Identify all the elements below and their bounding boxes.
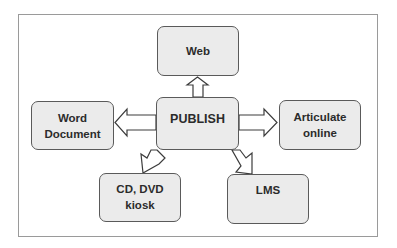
node-web-label: Web bbox=[186, 43, 210, 59]
node-publish-label: PUBLISH bbox=[170, 111, 225, 127]
node-lms: LMS bbox=[227, 174, 309, 224]
node-articulate-online: Articulate online bbox=[279, 100, 361, 150]
node-lms-label: LMS bbox=[256, 182, 280, 198]
node-articulate-online-label-2: online bbox=[303, 125, 337, 141]
node-articulate-online-label-1: Articulate bbox=[293, 109, 346, 125]
node-cd-dvd-kiosk-label-2: kiosk bbox=[125, 197, 154, 213]
node-cd-dvd-kiosk-label-1: CD, DVD bbox=[116, 181, 163, 197]
node-cd-dvd-kiosk: CD, DVD kiosk bbox=[99, 173, 181, 222]
node-word-document-label-2: Document bbox=[44, 126, 100, 142]
node-publish: PUBLISH bbox=[156, 97, 239, 150]
node-word-document: Word Document bbox=[31, 101, 114, 150]
node-web: Web bbox=[157, 26, 239, 76]
node-word-document-label-1: Word bbox=[58, 110, 87, 126]
